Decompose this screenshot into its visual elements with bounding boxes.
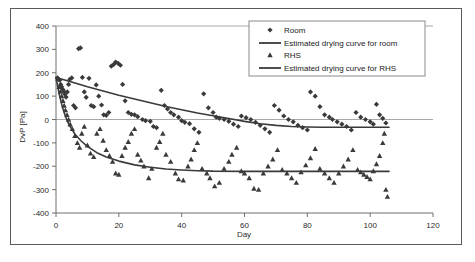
legend-label: Room (284, 26, 306, 35)
y-tick-label: 200 (36, 69, 50, 78)
y-tick-label: -300 (33, 186, 50, 195)
y-tick-label: 300 (36, 45, 50, 54)
y-tick-label: 0 (45, 116, 50, 125)
x-tick-label: 120 (426, 221, 440, 230)
y-tick-label: -400 (33, 209, 50, 218)
chart-legend: RoomEstimated drying curve for roomRHSEs… (249, 21, 425, 76)
x-tick-label: 80 (303, 221, 312, 230)
x-tick-label: 20 (114, 221, 123, 230)
y-tick-label: 400 (36, 22, 50, 31)
y-tick-label: 100 (36, 92, 50, 101)
legend-label: RHS (284, 51, 301, 60)
y-tick-label: -200 (33, 162, 50, 171)
x-axis-ticks: 020406080100120 (54, 213, 440, 230)
y-axis-title: DvP [Pa] (18, 111, 27, 142)
x-axis-title: Day (237, 230, 251, 239)
y-axis-ticks: 4003002001000-100-200-300-400 (33, 22, 56, 218)
legend-label: Estimated drying curve for room (284, 39, 398, 48)
x-tick-label: 40 (177, 221, 186, 230)
chart-plot: 4003002001000-100-200-300-400 0204060801… (11, 9, 463, 246)
chart-frame: 4003002001000-100-200-300-400 0204060801… (10, 8, 462, 245)
x-tick-label: 60 (240, 221, 249, 230)
x-tick-label: 0 (54, 221, 59, 230)
y-tick-label: -100 (33, 139, 50, 148)
x-tick-label: 100 (363, 221, 377, 230)
legend-label: Estimated drying curve for RHS (284, 64, 396, 73)
